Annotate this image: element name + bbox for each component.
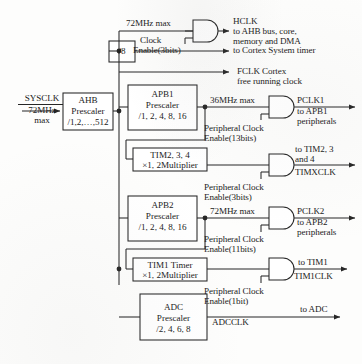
tim234-line2: ×1, 2Multiplier	[133, 160, 207, 170]
junction-trunk-tim1	[117, 267, 122, 272]
div8-label: /8	[109, 46, 135, 56]
timxclk-out-line3: TIMXCLK	[295, 168, 336, 178]
hclk-enable-line2: Enable(3bits)	[133, 46, 181, 56]
and-gate-pclk2	[269, 207, 294, 229]
pclk1-enable-line2: Enable(13bits)	[204, 134, 256, 144]
pclk1-rate-label: 36MHz max	[210, 96, 255, 106]
tim1clk-out-line2: TIM1CLK	[294, 272, 333, 282]
pclk1-out-line3: peripherals	[297, 117, 336, 127]
systick-out-label: to Cortex System timer	[233, 46, 315, 56]
apb2-prescaler-line2: Prescaler	[128, 211, 197, 221]
tim1-line1: TIM1 Timer	[133, 260, 207, 270]
fclk-out-line2: free running clock	[237, 77, 302, 87]
pclk2-out-line3: peripherals	[297, 228, 336, 238]
tim1-enable-line2: Enable(1bit)	[204, 297, 248, 307]
pclk2-rate-label: 72MHz max	[210, 207, 255, 217]
ahb-prescaler-line2: Prescaler	[63, 106, 113, 116]
pclk1-out-line1: PCLK1	[297, 96, 324, 106]
apb1-prescaler-line2: Prescaler	[128, 100, 197, 110]
and-gate-tim1clk	[269, 258, 294, 280]
clock-tree-diagram: SYSCLK 72MHz max AHB Prescaler /1,2,…,51…	[0, 0, 362, 364]
apb2-prescaler-line3: /1, 2, 4, 8, 16	[128, 222, 197, 232]
and-gate-timxclk	[269, 154, 294, 176]
tim234-line1: TIM2, 3, 4	[133, 150, 207, 160]
and-gate-pclk1	[269, 96, 294, 118]
adc-prescaler-line3: /2, 4, 6, 8	[140, 324, 207, 334]
pclk2-enable-line2: Enable(11bits)	[204, 245, 256, 255]
pclk2-out-line1: PCLK2	[297, 207, 324, 217]
adc-prescaler-line1: ADC	[140, 302, 207, 312]
and-gate-hclk	[193, 20, 218, 42]
apb1-prescaler-line1: APB1	[128, 89, 197, 99]
tim1clk-out-line1: to TIM1	[298, 258, 328, 268]
adcclk-out-line2: ADCCLK	[212, 318, 249, 328]
adc-prescaler-line2: Prescaler	[140, 313, 207, 323]
hclk-rate-label: 72MHz max	[126, 19, 171, 29]
timx-enable-line2: Enable(3bits)	[204, 193, 252, 203]
timxclk-out-line2: and 4	[295, 155, 314, 165]
ahb-prescaler-line1: AHB	[63, 95, 113, 105]
adcclk-out-line1: to ADC	[300, 305, 327, 315]
apb2-prescaler-line1: APB2	[128, 200, 197, 210]
apb1-prescaler-line3: /1, 2, 4, 8, 16	[128, 111, 197, 121]
ahb-prescaler-line3: /1,2,…,512	[62, 117, 114, 127]
tim1-line2: ×1, 2Multiplier	[133, 270, 207, 280]
